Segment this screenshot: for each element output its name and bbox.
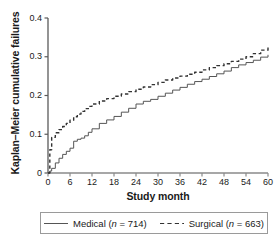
legend-swatch-solid xyxy=(44,220,68,227)
x-axis-tick-label: 24 xyxy=(126,178,146,187)
x-axis-tick-label: 42 xyxy=(192,178,212,187)
plot-canvas xyxy=(0,0,278,205)
x-axis-tick-label: 12 xyxy=(82,178,102,187)
legend: Medical (n = 714) Surgical (n = 663) xyxy=(40,212,268,234)
x-axis-tick-label: 54 xyxy=(236,178,256,187)
x-axis-tick-label: 0 xyxy=(38,178,58,187)
kaplan-meier-chart: Kaplan–Meier cumulative failures 00.10.2… xyxy=(0,0,278,241)
legend-label-surgical: Surgical (n = 663) xyxy=(189,218,264,229)
x-axis-tick-label: 30 xyxy=(148,178,168,187)
x-axis-tick-label: 18 xyxy=(104,178,124,187)
x-axis-tick-label: 6 xyxy=(60,178,80,187)
x-axis-tick-label: 48 xyxy=(214,178,234,187)
x-axis-tick-label: 60 xyxy=(258,178,278,187)
x-axis-tick-labels: 06121824303642485460 xyxy=(0,178,278,190)
legend-item-medical: Medical (n = 714) xyxy=(44,218,147,229)
x-axis-title: Study month xyxy=(48,190,268,202)
series-line-surgical xyxy=(48,47,268,173)
legend-item-surgical: Surgical (n = 663) xyxy=(160,218,264,229)
legend-swatch-dashed xyxy=(160,220,184,227)
legend-label-medical: Medical (n = 714) xyxy=(73,218,147,229)
x-axis-tick-label: 36 xyxy=(170,178,190,187)
